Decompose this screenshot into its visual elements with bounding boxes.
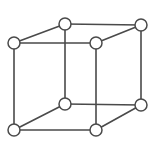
lattice-edge-back-bottom	[65, 104, 141, 105]
edge-layer	[14, 24, 141, 130]
lattice-node-front-top-right	[90, 37, 102, 49]
lattice-node-front-top-left	[8, 37, 20, 49]
lattice-diagram-canvas	[0, 0, 154, 152]
lattice-edge-depth-bottom-right	[96, 105, 141, 130]
lattice-edge-back-top	[65, 24, 141, 25]
lattice-node-front-bottom-right	[90, 124, 102, 136]
lattice-node-front-bottom-left	[8, 124, 20, 136]
lattice-edge-depth-top-right	[96, 25, 141, 43]
lattice-node-back-bottom-left	[59, 98, 71, 110]
lattice-node-back-top-left	[59, 18, 71, 30]
cubic-unit-cell-figure	[0, 0, 154, 152]
lattice-edge-depth-bottom-left	[14, 104, 65, 130]
node-layer	[8, 18, 147, 136]
lattice-edge-depth-top-left	[14, 24, 65, 43]
lattice-node-back-bottom-right	[135, 99, 147, 111]
lattice-node-back-top-right	[135, 19, 147, 31]
